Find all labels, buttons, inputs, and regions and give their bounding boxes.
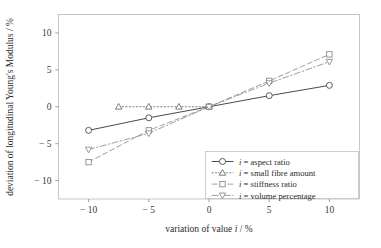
y-axis-label: deviation of longitudinal Young's Modulu… <box>5 18 15 196</box>
y-axis-ticks <box>55 33 58 181</box>
legend-label-0: i = aspect ratio <box>239 157 290 167</box>
data-point-circle <box>146 115 152 121</box>
x-axis-tick-labels: − 10− 50510 <box>80 205 334 215</box>
data-point-circle <box>86 127 92 133</box>
legend-label-3: i = volume percentage <box>239 191 316 201</box>
legend-label-2: i = stiffness ratio <box>239 179 297 189</box>
x-axis-label: variation of value i / % <box>165 224 252 234</box>
y-tick-label: − 5 <box>39 139 52 149</box>
y-tick-label: 0 <box>47 102 52 112</box>
data-point-square <box>86 159 91 164</box>
line-chart: − 10− 50510 − 10− 50510 variation of val… <box>0 0 381 248</box>
chart-figure: − 10− 50510 − 10− 50510 variation of val… <box>0 0 381 248</box>
y-tick-label: 10 <box>42 28 52 38</box>
x-tick-label: 10 <box>325 205 335 215</box>
x-tick-label: − 10 <box>80 205 97 215</box>
x-tick-label: 5 <box>267 205 272 215</box>
data-point-square <box>327 52 332 57</box>
y-tick-label: − 10 <box>34 176 51 186</box>
legend-label-1: i = small fibre amount <box>239 168 316 178</box>
chart-legend: i = aspect ratioi = small fibre amounti … <box>206 152 359 201</box>
data-point-circle <box>220 159 226 165</box>
y-tick-label: 5 <box>47 65 52 75</box>
data-point-circle <box>266 93 272 99</box>
x-tick-label: 0 <box>207 205 212 215</box>
data-point-circle <box>326 82 332 88</box>
data-point-square <box>220 181 225 186</box>
y-axis-tick-labels: − 10− 50510 <box>34 28 51 186</box>
x-tick-label: − 5 <box>143 205 156 215</box>
